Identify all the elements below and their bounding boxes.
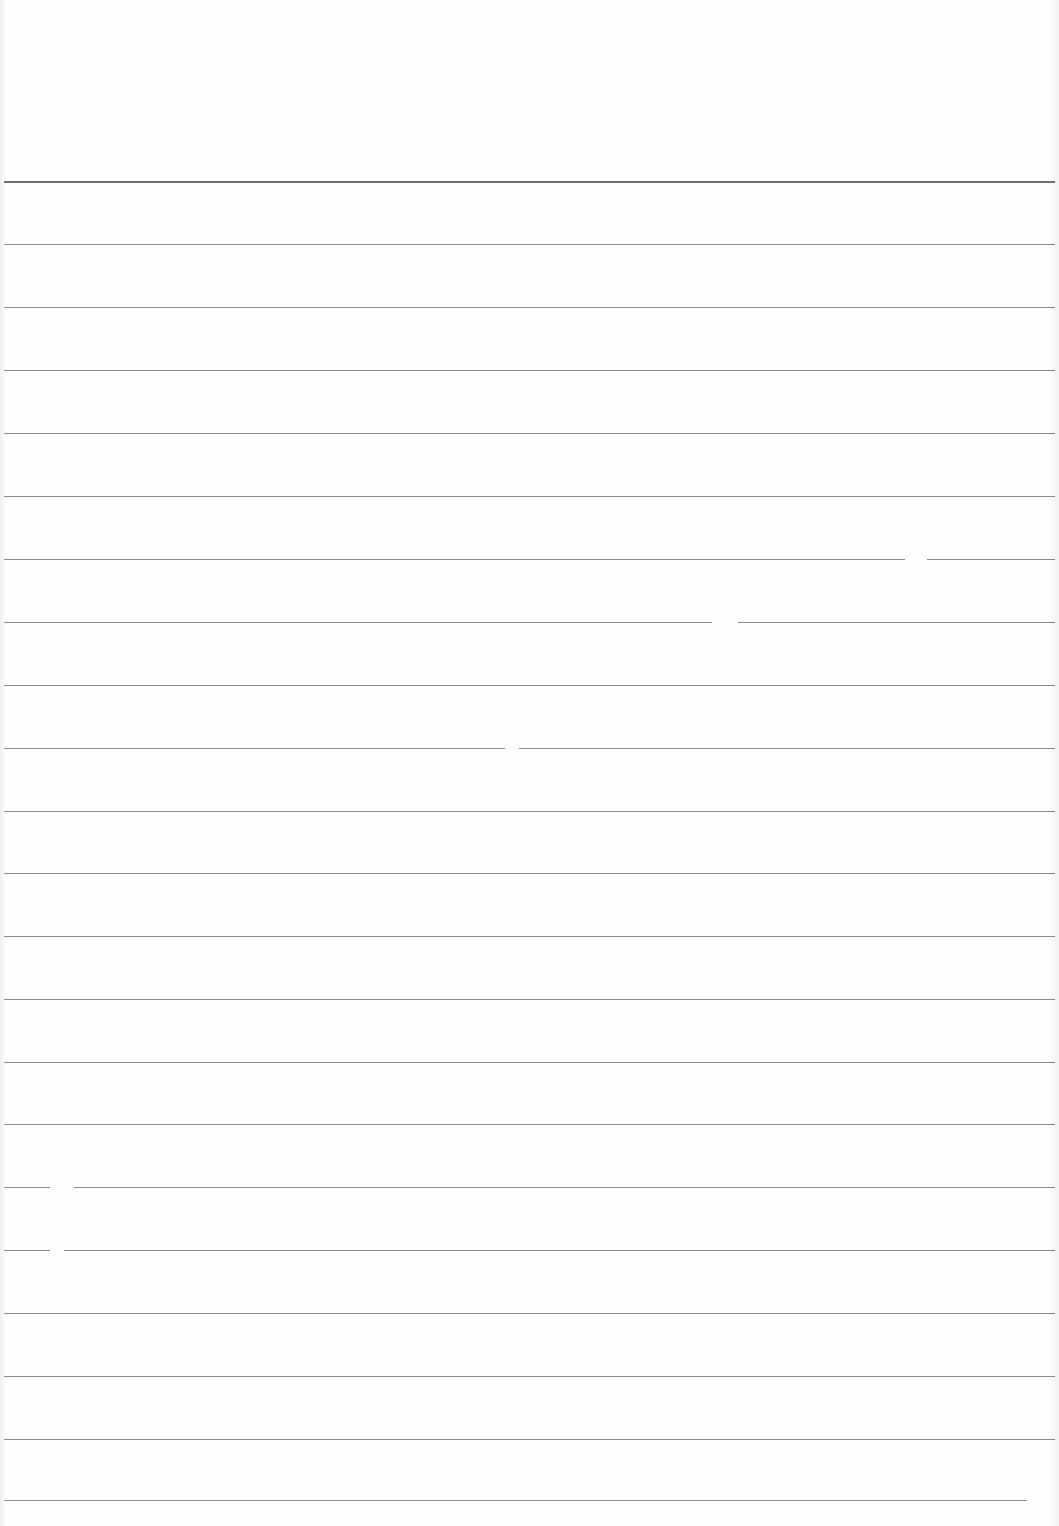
ruled-line: [4, 370, 1055, 371]
lined-paper-sheet: [0, 0, 1059, 1526]
header-blank-area: [0, 0, 1059, 178]
ruled-line: [4, 685, 1055, 686]
ruled-line: [4, 559, 1055, 560]
line-gap-artifact: [50, 1184, 74, 1190]
ruled-line: [4, 1062, 1055, 1063]
line-gap-artifact: [50, 1247, 64, 1253]
ruled-line: [4, 1500, 1027, 1501]
ruled-line: [4, 1313, 1055, 1314]
ruled-line: [4, 433, 1055, 434]
ruled-line: [4, 496, 1055, 497]
ruled-line: [4, 1187, 1055, 1188]
ruled-line: [4, 1439, 1055, 1440]
ruled-line: [4, 1124, 1055, 1125]
line-gap-artifact: [505, 745, 519, 751]
ruled-line: [4, 307, 1055, 308]
ruled-line: [4, 1376, 1055, 1377]
line-gap-artifact: [712, 619, 738, 625]
ruled-line: [4, 748, 1055, 749]
line-gap-artifact: [905, 556, 927, 562]
ruled-line: [4, 1250, 1055, 1251]
ruled-line: [4, 811, 1055, 812]
ruled-line: [4, 622, 1055, 623]
ruled-line: [4, 244, 1055, 245]
ruled-line: [4, 999, 1055, 1000]
ruled-line: [4, 936, 1055, 937]
ruled-line: [4, 181, 1055, 183]
ruled-line: [4, 873, 1055, 874]
